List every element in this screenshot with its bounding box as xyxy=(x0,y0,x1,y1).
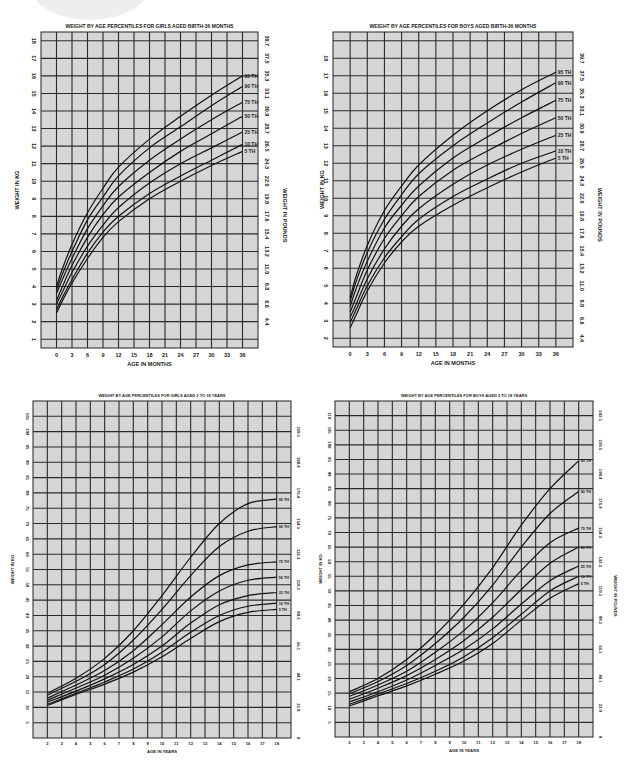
y-tick-label: 1 xyxy=(31,338,37,341)
y2-tick-label: 22.0 xyxy=(598,704,603,713)
x-tick-label: 12 xyxy=(416,351,422,357)
x-tick-label: 27 xyxy=(193,352,199,358)
x-tick-label: 33 xyxy=(224,352,230,358)
y-tick-label: 12 xyxy=(31,143,37,149)
y2-axis-label: WEIGHT IN POUNDS xyxy=(613,575,618,616)
y2-tick-label: 8.8 xyxy=(579,299,585,307)
y2-tick-label: 19.8 xyxy=(579,210,585,221)
x-tick-label: 16 xyxy=(246,741,251,746)
percentile-label: 25 TH xyxy=(279,591,290,595)
y2-tick-label: 35.3 xyxy=(264,71,270,82)
y-tick-label: 80 xyxy=(25,491,30,496)
y2-tick-label: 22.0 xyxy=(296,703,301,712)
y2-tick-label: 44.1 xyxy=(296,673,301,682)
y-tick-label: 20 xyxy=(327,676,332,681)
chart-girls-infant: WEIGHT BY AGE PERCENTILES FOR GIRLS AGED… xyxy=(0,18,310,383)
y2-tick-label: 22.0 xyxy=(579,193,585,204)
y-tick-label: 10 xyxy=(25,705,30,710)
percentile-label: 25 TH xyxy=(581,565,592,569)
y-tick-label: 7 xyxy=(31,232,37,235)
y-tick-label: 8 xyxy=(323,232,329,235)
y-tick-label: 50 xyxy=(25,582,30,587)
x-tick-label: 14 xyxy=(217,741,222,746)
percentile-label: 90 TH xyxy=(581,490,592,494)
y-tick-label: 2 xyxy=(323,337,329,340)
y2-tick-label: 154.3 xyxy=(296,518,301,529)
x-tick-label: 5 xyxy=(89,741,92,746)
x-tick-label: 36 xyxy=(553,351,559,357)
y-tick-label: 13 xyxy=(31,125,37,131)
y-tick-label: 15 xyxy=(323,108,329,114)
y-tick-label: 25 xyxy=(25,659,30,664)
y2-tick-label: 11.0 xyxy=(264,264,270,274)
x-axis-label: AGE IN YEARS xyxy=(449,748,479,753)
percentile-label: 90 TH xyxy=(245,84,259,89)
y2-tick-label: 6.6 xyxy=(579,317,585,325)
x-tick-label: 12 xyxy=(115,352,121,358)
x-tick-label: 10 xyxy=(462,740,467,745)
percentile-label: 90 TH xyxy=(279,525,290,529)
percentile-label: 75 TH xyxy=(279,560,290,564)
x-tick-label: 3 xyxy=(60,741,63,746)
y2-tick-label: 39.7 xyxy=(264,35,270,46)
y2-tick-label: 13.2 xyxy=(579,263,585,274)
x-tick-label: 4 xyxy=(377,740,380,745)
x-tick-label: 21 xyxy=(467,351,473,357)
percentile-label: 95 TH xyxy=(279,498,290,502)
y-tick-label: 9 xyxy=(323,214,329,217)
percentile-label: 5 TH xyxy=(245,149,256,154)
y-tick-label: 105 xyxy=(25,413,30,421)
percentile-label: 75 TH xyxy=(558,98,572,103)
y2-tick-label: 0 xyxy=(598,736,603,739)
percentile-label: 25 TH xyxy=(245,130,259,135)
y-tick-label: 3 xyxy=(323,319,329,322)
y-axis-label: WEIGHT IN KG xyxy=(318,554,323,584)
y2-tick-label: 6.6 xyxy=(264,300,270,308)
y-tick-label: 5 xyxy=(31,267,37,270)
y-tick-label: 12 xyxy=(323,160,329,166)
y-tick-label: 11 xyxy=(31,161,37,167)
y2-tick-label: 24.3 xyxy=(264,158,270,169)
y2-tick-label: 242.5 xyxy=(598,410,603,421)
y-tick-label: 14 xyxy=(323,125,329,132)
y-tick-label: 55 xyxy=(25,567,30,572)
y-tick-label: 25 xyxy=(327,662,332,667)
y-axis-label: WEIGHT IN KG xyxy=(14,171,20,210)
y2-tick-label: 88.2 xyxy=(296,611,301,620)
y-tick-label: 70 xyxy=(327,530,332,535)
y2-tick-label: 110.2 xyxy=(296,580,301,591)
percentile-label: 50 TH xyxy=(279,576,290,580)
y-tick-label: 5 xyxy=(327,721,332,724)
y-tick-label: 55 xyxy=(327,574,332,579)
y2-tick-label: 4.4 xyxy=(264,318,270,327)
y-tick-label: 18 xyxy=(31,38,37,44)
y-tick-label: 75 xyxy=(25,506,30,511)
y-tick-label: 5 xyxy=(323,284,329,287)
chart-girls-child: WEIGHT BY AGE PERCENTILES FOR GIRLS AGED… xyxy=(0,393,310,767)
x-tick-label: 13 xyxy=(505,740,510,745)
y-tick-label: 45 xyxy=(25,598,30,603)
chart-svg: WEIGHT BY AGE PERCENTILES FOR BOYS AGED … xyxy=(318,390,625,767)
chart-svg: WEIGHT BY AGE PERCENTILES FOR BOYS AGED … xyxy=(318,18,625,380)
y2-tick-label: 220.5 xyxy=(598,440,603,451)
x-tick-label: 9 xyxy=(101,352,104,358)
y-tick-label: 100 xyxy=(25,428,30,436)
y-tick-label: 2 xyxy=(31,320,37,323)
y2-axis-label: WEIGHT IN POUNDS xyxy=(282,188,288,242)
y-tick-label: 100 xyxy=(327,441,332,449)
x-tick-label: 3 xyxy=(362,740,365,745)
chart-boys-infant: WEIGHT BY AGE PERCENTILES FOR BOYS AGED … xyxy=(318,18,625,380)
x-tick-label: 15 xyxy=(433,351,439,357)
chart-title: WEIGHT BY AGE PERCENTILES FOR GIRLS AGED… xyxy=(98,393,225,398)
y-tick-label: 3 xyxy=(31,303,37,306)
y-tick-label: 10 xyxy=(327,705,332,710)
y-tick-label: 60 xyxy=(327,559,332,564)
percentile-label: 25 TH xyxy=(558,133,572,138)
x-tick-label: 24 xyxy=(177,352,184,358)
y2-tick-label: 176.4 xyxy=(598,498,603,509)
y2-tick-label: 19.8 xyxy=(264,193,270,204)
x-axis-label: AGE IN MONTHS xyxy=(431,360,476,366)
y2-tick-label: 220.5 xyxy=(296,426,301,437)
y-tick-label: 85 xyxy=(25,475,30,480)
y-tick-label: 75 xyxy=(327,516,332,521)
